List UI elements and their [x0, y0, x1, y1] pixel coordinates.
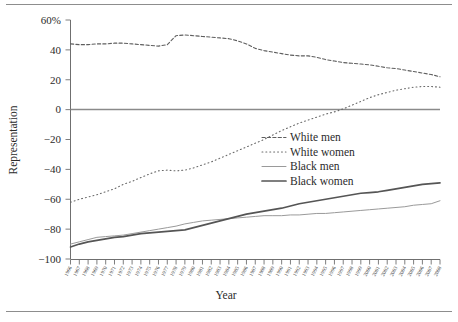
legend-label-black-women: Black women: [290, 175, 354, 187]
y-axis-group: 60%40200−20−40−60−80−100 Representation: [7, 14, 71, 265]
y-tick-labels: 60%40200−20−40−60−80−100: [38, 14, 61, 265]
x-tick-labels: 1966196719681969197019711972197319741975…: [63, 265, 443, 277]
legend-label-black-men: Black men: [290, 160, 340, 172]
y-tick-marks: [66, 20, 71, 259]
y-tick-label: 40: [50, 44, 62, 56]
y-axis-title: Representation: [7, 105, 20, 174]
series-line-white-men: [71, 35, 441, 77]
y-tick-label: −20: [44, 133, 62, 145]
y-tick-label: −80: [44, 223, 62, 235]
y-tick-label: 20: [50, 74, 62, 86]
series-line-black-women: [71, 183, 441, 247]
y-tick-label: 0: [56, 103, 62, 115]
y-tick-label: −100: [38, 253, 61, 265]
legend-label-white-men: White men: [290, 131, 341, 143]
y-tick-label: −40: [44, 163, 62, 175]
representation-by-group-line-chart: 60%40200−20−40−60−80−100 Representation …: [0, 0, 458, 322]
series-line-black-men: [71, 201, 441, 244]
series-lines-group: [71, 35, 441, 247]
series-line-white-women: [71, 86, 441, 202]
x-axis-group: 1966196719681969197019711972197319741975…: [63, 260, 443, 302]
y-tick-label: −60: [44, 193, 62, 205]
chart-legend: White menWhite womenBlack menBlack women: [262, 131, 355, 187]
x-axis-title: Year: [215, 289, 236, 301]
y-tick-label: 60%: [41, 14, 61, 26]
x-tick-label: 2008: [432, 265, 442, 277]
legend-label-white-women: White women: [290, 146, 355, 158]
x-tick-marks: [71, 260, 441, 265]
